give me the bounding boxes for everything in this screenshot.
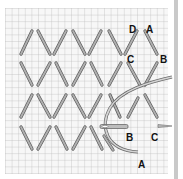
label-bottom-a: A [138,159,145,170]
label-top-c: C [127,54,134,65]
label-top-a: A [146,24,153,35]
label-bottom-b: B [126,132,133,143]
stitch-diagram: D A C B B C A [0,0,183,179]
needle-icon [100,125,128,129]
needle-tip-icon [158,125,172,128]
page-edge-bar [174,0,178,179]
label-top-d: D [129,24,136,35]
label-top-b: B [160,54,167,65]
label-bottom-c: C [151,132,158,143]
